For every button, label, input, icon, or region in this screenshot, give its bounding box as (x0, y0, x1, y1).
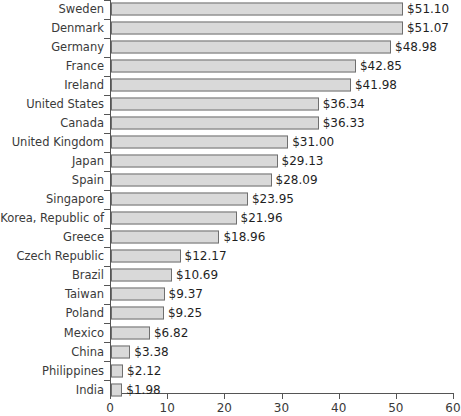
y-axis-tick (104, 304, 110, 305)
x-axis-tick (282, 393, 283, 399)
bar-value-label: $28.09 (276, 173, 318, 187)
category-label: Germany (51, 41, 104, 54)
y-axis-tick (104, 380, 110, 381)
category-label: Ireland (64, 79, 104, 92)
bar (111, 98, 319, 111)
x-axis-tick (339, 393, 340, 399)
bar (111, 364, 123, 377)
y-axis-tick (104, 285, 110, 286)
category-label: Brazil (72, 269, 104, 282)
x-axis-tick-label: 50 (388, 401, 403, 415)
bar (111, 41, 391, 54)
x-axis-tick-label: 60 (445, 401, 460, 415)
bar-value-label: $2.12 (127, 364, 161, 378)
bar-row: Mexico$6.82 (0, 323, 454, 342)
y-axis-tick (104, 0, 110, 1)
bar-row: Spain$28.09 (0, 171, 454, 190)
x-axis-tick-label: 30 (274, 401, 289, 415)
bar-value-label: $31.00 (292, 135, 334, 149)
bar-row: Korea, Republic of$21.96 (0, 209, 454, 228)
y-axis-tick (104, 342, 110, 343)
bar-row: China$3.38 (0, 342, 454, 361)
y-axis-tick (104, 76, 110, 77)
bar (111, 193, 248, 206)
category-label: India (76, 383, 104, 396)
bar-value-label: $29.13 (282, 154, 324, 168)
bar-row: Taiwan$9.37 (0, 285, 454, 304)
bar-value-label: $18.96 (223, 230, 265, 244)
category-label: France (66, 60, 104, 73)
y-axis-tick (104, 266, 110, 267)
y-axis-tick (104, 114, 110, 115)
y-axis-tick (104, 57, 110, 58)
bar (111, 269, 172, 282)
category-label: Philippines (42, 364, 104, 377)
x-axis-tick (224, 393, 225, 399)
category-label: Canada (60, 117, 104, 130)
category-label: United States (26, 98, 104, 111)
y-axis-tick (104, 323, 110, 324)
bar-value-label: $12.17 (185, 249, 227, 263)
bar-value-label: $51.07 (407, 21, 449, 35)
bar (111, 250, 181, 263)
x-axis-tick (453, 393, 454, 399)
x-axis-tick-label: 20 (217, 401, 232, 415)
bar-row: Singapore$23.95 (0, 190, 454, 209)
bar-value-label: $51.10 (407, 2, 449, 16)
bar-row: Greece$18.96 (0, 228, 454, 247)
y-axis-tick (104, 19, 110, 20)
bar (111, 231, 219, 244)
bar-row: Sweden$51.10 (0, 0, 454, 19)
y-axis-tick (104, 190, 110, 191)
category-label: Taiwan (65, 288, 104, 301)
y-axis-tick (104, 133, 110, 134)
category-label: Singapore (46, 193, 104, 206)
category-label: Denmark (51, 22, 104, 35)
bar (111, 155, 278, 168)
bar (111, 79, 351, 92)
bar-value-label: $10.69 (176, 268, 218, 282)
y-axis-tick (104, 361, 110, 362)
y-axis-tick (104, 228, 110, 229)
y-axis-tick (104, 209, 110, 210)
bar-row: Philippines$2.12 (0, 361, 454, 380)
x-axis-tick-label: 40 (331, 401, 346, 415)
bar-value-label: $1.98 (126, 383, 160, 397)
bar-value-label: $36.33 (323, 116, 365, 130)
bar (111, 22, 403, 35)
bar-row: Czech Republic$12.17 (0, 247, 454, 266)
bar-value-label: $36.34 (323, 97, 365, 111)
category-label: Japan (72, 155, 104, 168)
category-label: China (71, 345, 104, 358)
x-axis-tick (167, 393, 168, 399)
bar (111, 174, 272, 187)
category-label: Spain (72, 174, 104, 187)
bar-row: Japan$29.13 (0, 152, 454, 171)
x-axis-tick (110, 393, 111, 399)
bar (111, 60, 356, 73)
bar-value-label: $42.85 (360, 59, 402, 73)
bar-value-label: $23.95 (252, 192, 294, 206)
bar (111, 136, 288, 149)
bar-value-label: $6.82 (154, 326, 188, 340)
bar-value-label: $41.98 (355, 78, 397, 92)
x-axis-tick (396, 393, 397, 399)
bar-row: United States$36.34 (0, 95, 454, 114)
y-axis-tick (104, 95, 110, 96)
bar (111, 212, 237, 225)
bar-row: United Kingdom$31.00 (0, 133, 454, 152)
bar (111, 117, 319, 130)
bar (111, 3, 403, 16)
bar-row: Canada$36.33 (0, 114, 454, 133)
category-label: Korea, Republic of (0, 212, 104, 225)
bar-value-label: $9.37 (169, 287, 203, 301)
category-label: Greece (63, 231, 104, 244)
bar (111, 326, 150, 339)
category-label: Poland (66, 307, 104, 320)
bar-value-label: $21.96 (241, 211, 283, 225)
bar (111, 307, 164, 320)
y-axis-tick (104, 38, 110, 39)
category-label: Mexico (64, 326, 104, 339)
bar-row: Germany$48.98 (0, 38, 454, 57)
